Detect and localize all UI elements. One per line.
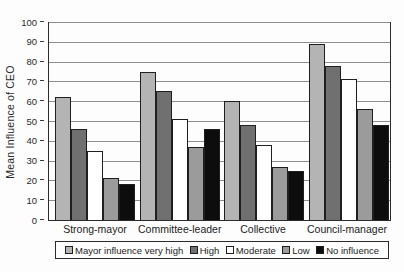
bar-group-strong-mayor <box>55 97 135 220</box>
y-tick-label-100: 100 <box>7 17 37 28</box>
y-tick-mark-20 <box>40 179 44 180</box>
bar-strong-mayor-no-influence <box>119 184 135 220</box>
bar-council-manager-low <box>357 109 373 220</box>
y-tick-mark-40 <box>40 140 44 141</box>
bar-council-manager-mayor-influence-very-high <box>309 44 325 220</box>
legend-item-moderate: Moderate <box>226 245 276 256</box>
bar-committee-leader-moderate <box>172 119 188 220</box>
bar-committee-leader-high <box>156 91 172 220</box>
legend-label: High <box>200 245 220 256</box>
y-axis-ticks: 0102030405060708090100 <box>0 22 44 220</box>
y-tick-label-80: 80 <box>7 56 37 67</box>
y-tick-label-70: 70 <box>7 76 37 87</box>
legend: Mayor influence very highHighModerateLow… <box>55 241 389 259</box>
bar-collective-mayor-influence-very-high <box>224 101 240 220</box>
y-tick-label-50: 50 <box>7 116 37 127</box>
x-label-collective: Collective <box>222 223 304 235</box>
legend-swatch-icon <box>65 246 73 254</box>
bar-council-manager-no-influence <box>373 125 389 220</box>
x-label-committee-leader: Committee-leader <box>138 223 220 235</box>
bar-collective-high <box>240 125 256 220</box>
legend-swatch-icon <box>316 246 324 254</box>
bar-strong-mayor-high <box>71 129 87 220</box>
bar-committee-leader-low <box>188 147 204 220</box>
x-axis-labels: Strong-mayorCommittee-leaderCollectiveCo… <box>48 223 389 235</box>
y-tick-mark-30 <box>40 160 44 161</box>
bar-committee-leader-mayor-influence-very-high <box>140 72 156 221</box>
y-tick-label-60: 60 <box>7 96 37 107</box>
bar-collective-moderate <box>256 145 272 220</box>
legend-swatch-icon <box>282 246 290 254</box>
bar-group-council-manager <box>309 44 389 220</box>
y-tick-mark-80 <box>40 61 44 62</box>
y-tick-label-30: 30 <box>7 155 37 166</box>
legend-item-mayor-influence-very-high: Mayor influence very high <box>65 245 183 256</box>
y-tick-mark-70 <box>40 80 44 81</box>
bars <box>49 22 390 220</box>
y-tick-label-40: 40 <box>7 135 37 146</box>
bar-collective-low <box>272 167 288 220</box>
bar-strong-mayor-low <box>103 178 119 220</box>
legend-swatch-icon <box>190 246 198 254</box>
bar-collective-no-influence <box>288 171 304 221</box>
bar-group-collective <box>224 101 304 220</box>
x-label-strong-mayor: Strong-mayor <box>54 223 136 235</box>
bar-strong-mayor-moderate <box>87 151 103 220</box>
legend-label: No influence <box>326 245 379 256</box>
legend-item-no-influence: No influence <box>316 245 379 256</box>
legend-swatch-icon <box>226 246 234 254</box>
y-tick-mark-0 <box>40 219 44 220</box>
legend-label: Mayor influence very high <box>75 245 183 256</box>
bar-council-manager-moderate <box>341 79 357 220</box>
legend-item-high: High <box>190 245 220 256</box>
y-tick-label-10: 10 <box>7 195 37 206</box>
bar-council-manager-high <box>325 66 341 220</box>
y-tick-label-20: 20 <box>7 175 37 186</box>
y-tick-mark-60 <box>40 100 44 101</box>
legend-label: Moderate <box>236 245 276 256</box>
plot-area <box>48 22 391 221</box>
y-tick-mark-50 <box>40 120 44 121</box>
y-tick-mark-90 <box>40 41 44 42</box>
y-tick-mark-100 <box>40 21 44 22</box>
y-tick-label-0: 0 <box>7 215 37 226</box>
bar-committee-leader-no-influence <box>204 129 220 220</box>
y-tick-mark-10 <box>40 199 44 200</box>
bar-group-committee-leader <box>140 72 220 221</box>
y-tick-label-90: 90 <box>7 36 37 47</box>
bar-strong-mayor-mayor-influence-very-high <box>55 97 71 220</box>
legend-item-low: Low <box>282 245 309 256</box>
bar-chart-figure: Mean Influence of CEO 010203040506070809… <box>0 0 404 272</box>
legend-label: Low <box>292 245 309 256</box>
x-label-council-manager: Council-manager <box>306 223 388 235</box>
